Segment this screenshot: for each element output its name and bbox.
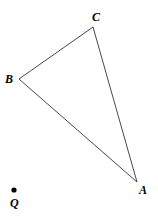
label-b: B (4, 72, 13, 86)
label-c: C (92, 10, 101, 24)
edge-ca (93, 27, 137, 182)
edge-ab (19, 79, 137, 182)
label-a: A (138, 183, 147, 197)
triangle-diagram: C B A Q (0, 0, 158, 222)
edge-bc (19, 27, 93, 79)
point-q-dot (11, 187, 16, 192)
label-q: Q (10, 196, 19, 210)
